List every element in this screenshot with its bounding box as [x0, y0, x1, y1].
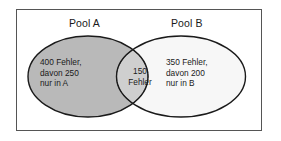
- pool-a-annotation-line-3: nur in A: [40, 78, 82, 89]
- pool-a-annotation-line-2: davon 250: [40, 68, 82, 79]
- venn-diagram-figure: Pool A Pool B 400 Fehler, davon 250 nur …: [0, 0, 281, 141]
- pool-a-annotation: 400 Fehler, davon 250 nur in A: [40, 57, 82, 89]
- pool-b-annotation-line-2: davon 200: [166, 68, 208, 79]
- pool-a-label: Pool A: [69, 17, 100, 29]
- pool-b-annotation-line-3: nur in B: [166, 78, 208, 89]
- intersection-annotation: 150 Fehler: [119, 66, 161, 87]
- pool-b-annotation-line-1: 350 Fehler,: [166, 57, 208, 68]
- intersection-annotation-line-2: Fehler: [119, 77, 161, 88]
- pool-b-annotation: 350 Fehler, davon 200 nur in B: [166, 57, 208, 89]
- intersection-annotation-line-1: 150: [119, 66, 161, 77]
- pool-a-annotation-line-1: 400 Fehler,: [40, 57, 82, 68]
- pool-b-label: Pool B: [171, 17, 203, 29]
